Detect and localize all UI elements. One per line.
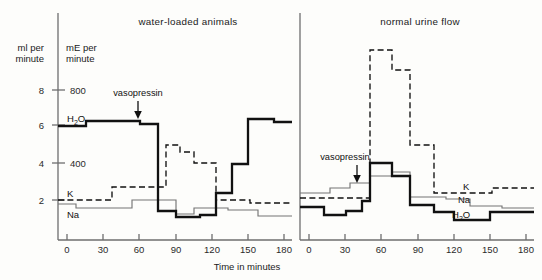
y-axis-unit-outer-line2: minute <box>15 53 44 64</box>
annotation-label-vasopressin-right: vasopressin <box>320 152 370 162</box>
series-k-right <box>300 50 534 198</box>
x-tick-label-180-left: 180 <box>276 244 292 255</box>
series-label-k-left: K <box>67 188 74 199</box>
x-tick-label-0-left: 0 <box>64 244 69 255</box>
annotation-arrow-head-right <box>353 175 361 183</box>
x-tick-label-150-left: 150 <box>240 244 256 255</box>
panel-title-normal-urine: normal urine flow <box>380 16 460 27</box>
x-tick-label-90-left: 90 <box>171 244 182 255</box>
x-tick-label-120-left: 120 <box>204 244 220 255</box>
x-tick-label-60-left: 60 <box>134 244 145 255</box>
x-tick-label-120-right: 120 <box>446 244 462 255</box>
y-tick-label-400: 400 <box>70 158 86 169</box>
x-tick-label-150-right: 150 <box>482 244 498 255</box>
y-tick-label-6: 6 <box>39 120 44 131</box>
y-axis-unit-outer-line1: ml per <box>18 42 44 53</box>
series-na-right <box>300 172 534 208</box>
x-tick-label-30-right: 30 <box>340 244 351 255</box>
annotation-arrow-head-left <box>134 111 142 119</box>
series-h2o-left <box>58 119 292 217</box>
series-label-na-left: Na <box>67 209 80 220</box>
x-axis-title: Time in minutes <box>214 261 281 272</box>
series-label-na-right: Na <box>458 194 471 205</box>
y-axis-unit-inner-line1: mE per <box>66 42 97 53</box>
y-tick-label-8: 8 <box>39 85 44 96</box>
series-h2o-right <box>300 163 534 220</box>
x-tick-label-0-right: 0 <box>306 244 311 255</box>
series-k-left <box>58 145 292 203</box>
series-label-k-right: K <box>463 181 470 192</box>
y-tick-label-2: 2 <box>39 195 44 206</box>
figure-container: 8 6 4 2 800 400 ml per minute mE per min… <box>0 0 542 280</box>
chart-svg: 8 6 4 2 800 400 ml per minute mE per min… <box>0 0 542 280</box>
panel-title-water-loaded: water-loaded animals <box>137 16 237 27</box>
x-tick-label-180-right: 180 <box>518 244 534 255</box>
y-tick-label-4: 4 <box>39 158 44 169</box>
annotation-label-vasopressin-left: vasopressin <box>113 88 163 98</box>
x-tick-label-90-right: 90 <box>413 244 424 255</box>
y-tick-label-800: 800 <box>70 85 86 96</box>
y-axis-unit-inner-line2: minute <box>66 53 95 64</box>
x-tick-label-60-right: 60 <box>376 244 387 255</box>
series-label-h2o-left: H2O <box>67 113 85 126</box>
x-tick-label-30-left: 30 <box>98 244 109 255</box>
